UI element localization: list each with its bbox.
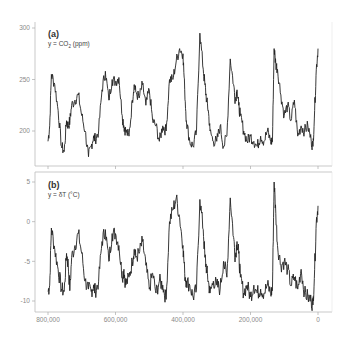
panel-b-x-ticks: 800,000600,000400,000200,0000 <box>36 312 320 323</box>
y-tick-label: 200 <box>19 127 30 134</box>
panel-a: 300250200 (a) y = CO2 (ppm) <box>19 22 332 169</box>
x-tick-label: 400,000 <box>171 316 195 323</box>
x-tick-label: 600,000 <box>104 316 128 323</box>
y-tick-label: 250 <box>19 76 30 83</box>
y-tick-label: 0 <box>26 218 30 225</box>
y-tick-label: 300 <box>19 24 30 31</box>
panel-a-ylabel: y = CO2 (ppm) <box>48 40 90 49</box>
panel-b: 50-5-10 800,000600,000400,000200,0000 (b… <box>21 172 332 323</box>
delta-t-line <box>48 182 318 311</box>
panel-b-y-ticks: 50-5-10 <box>21 178 35 304</box>
x-tick-label: 0 <box>316 316 320 323</box>
y-tick-label: 5 <box>26 178 30 185</box>
co2-line <box>48 33 318 157</box>
y-tick-label: -5 <box>24 258 30 265</box>
x-tick-label: 800,000 <box>36 316 60 323</box>
panel-b-ylabel: y = δT (°C) <box>48 191 80 199</box>
panel-b-label: (b) <box>48 180 60 190</box>
panel-a-label: (a) <box>48 29 59 39</box>
panel-a-y-ticks: 300250200 <box>19 24 35 134</box>
panel-a-x-ticks <box>48 166 318 169</box>
y-tick-label: -10 <box>21 297 31 304</box>
x-tick-label: 200,000 <box>239 316 263 323</box>
chart-figure: 300250200 (a) y = CO2 (ppm) 50-5-10 800,… <box>0 0 350 348</box>
